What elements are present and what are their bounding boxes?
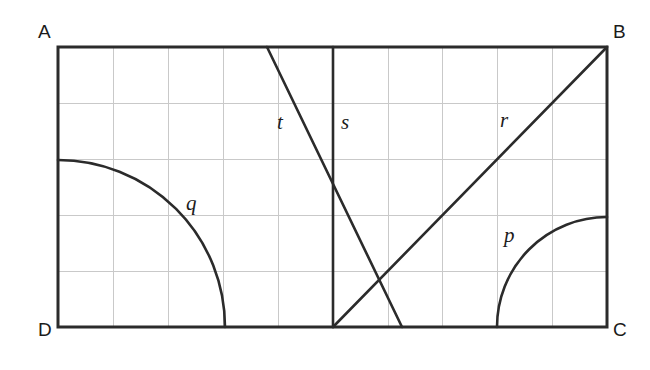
vertex-label-a: A (38, 22, 51, 41)
curve-label-s: s (341, 112, 349, 133)
curve-label-t: t (277, 112, 283, 133)
curve-q-arc (58, 160, 225, 327)
curve-label-q: q (186, 193, 197, 214)
curve-group (58, 47, 607, 327)
curve-t-line (267, 47, 402, 327)
vertex-label-c: C (613, 320, 627, 339)
figure-canvas (0, 0, 650, 370)
vertex-label-b: B (613, 22, 626, 41)
curve-label-r: r (500, 110, 508, 131)
vertex-label-d: D (38, 320, 52, 339)
curve-r-line (333, 47, 607, 327)
geometry-figure: A B C D p q r s t (0, 0, 650, 370)
curve-label-p: p (504, 225, 515, 246)
